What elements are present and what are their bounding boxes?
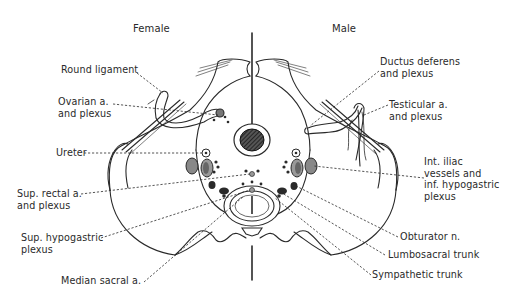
label-ureter: Ureter [56,147,87,159]
leader-sympathetic [275,198,371,275]
label-round-ligament: Round ligament [61,64,138,76]
leader-lumbosacral [282,193,385,255]
label-sympathetic-trunk: Sympathetic trunk [372,269,463,281]
label-sup-hypogastric-plexus: Sup. hypogastric plexus [21,232,103,255]
label-ductus-deferens: Ductus deferens and plexus [380,56,460,79]
label-sup-rectal-artery: Sup. rectal a. and plexus [17,188,82,211]
label-testicular-artery: Testicular a. and plexus [389,99,448,122]
label-ovarian-artery: Ovarian a. and plexus [58,96,111,119]
leader-obturator [296,186,398,237]
leader-median-sacral [144,196,244,282]
leader-ductus [310,71,379,126]
label-median-sacral-artery: Median sacral a. [61,275,141,287]
label-obturator-nerve: Obturator n. [400,231,460,243]
leader-int-iliac [314,166,424,178]
heading-female: Female [133,23,170,35]
heading-male: Male [332,23,356,35]
pelvis-diagram: Female Male Round ligament Ovarian a. an… [0,0,510,301]
label-int-iliac-vessels: Int. iliac vessels and inf. hypogastric … [424,156,499,202]
leader-round-ligament [137,73,163,93]
label-lumbosacral-trunk: Lumbosacral trunk [388,249,479,261]
leader-testicular [364,105,388,115]
